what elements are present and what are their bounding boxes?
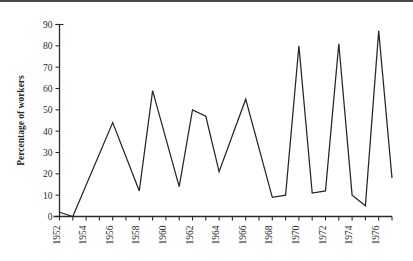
- x-tick-label: 1964: [211, 225, 221, 244]
- data-series-line: [60, 31, 393, 217]
- y-axis-title: Percentage of workers: [16, 75, 26, 166]
- chart-figure: 0102030405060708090195219541956195819601…: [0, 0, 413, 261]
- x-tick-label: 1962: [185, 225, 195, 244]
- x-tick-label: 1958: [131, 225, 141, 244]
- y-tick-label: 40: [43, 127, 53, 137]
- x-tick-label: 1954: [78, 225, 88, 244]
- y-tick-label: 70: [43, 63, 53, 73]
- x-tick-label: 1976: [371, 225, 381, 244]
- x-tick-label: 1974: [344, 225, 354, 244]
- x-tick-label: 1956: [105, 225, 115, 244]
- y-tick-label: 0: [48, 212, 53, 222]
- x-tick-label: 1960: [158, 225, 168, 244]
- x-tick-label: 1968: [264, 225, 274, 244]
- x-tick-label: 1952: [52, 225, 62, 244]
- y-tick-label: 50: [43, 105, 53, 115]
- x-tick-label: 1966: [238, 225, 248, 244]
- line-chart: 0102030405060708090195219541956195819601…: [0, 2, 413, 261]
- y-tick-label: 90: [43, 20, 53, 30]
- y-tick-label: 30: [43, 148, 53, 158]
- x-tick-label: 1972: [318, 225, 328, 244]
- y-tick-label: 10: [43, 191, 53, 201]
- x-tick-label: 1970: [291, 225, 301, 244]
- y-tick-label: 80: [43, 41, 53, 51]
- y-tick-label: 20: [43, 169, 53, 179]
- y-tick-label: 60: [43, 84, 53, 94]
